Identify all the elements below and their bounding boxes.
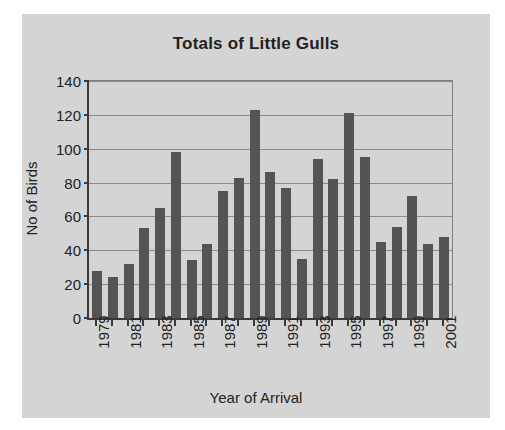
bar [155, 208, 165, 318]
x-tick-slot [137, 328, 147, 386]
x-tick-slot [421, 328, 431, 386]
y-tick-label: 80 [64, 174, 81, 191]
bar [392, 227, 402, 318]
x-tick-slot: 1987 [216, 328, 226, 386]
x-tick-slot [295, 328, 305, 386]
y-tick-label: 100 [56, 140, 81, 157]
bar [171, 152, 181, 318]
y-tick-label: 120 [56, 106, 81, 123]
x-tick-slot: 1983 [153, 328, 163, 386]
bar [108, 277, 118, 318]
plot-area: 020406080100120140 [87, 80, 453, 320]
y-tick-label: 60 [64, 208, 81, 225]
x-tick-slot [106, 328, 116, 386]
x-tick-slot [169, 328, 179, 386]
x-tick-slot: 1979 [90, 328, 100, 386]
bar [124, 264, 134, 318]
bar [439, 237, 449, 318]
y-tick-label: 0 [73, 310, 81, 327]
bar [313, 159, 323, 318]
x-tick-slot [232, 328, 242, 386]
x-axis-title: Year of Arrival [22, 389, 490, 406]
x-tick-slot [390, 328, 400, 386]
y-axis-title-text: No of Birds [23, 161, 40, 235]
x-tick-slot: 1989 [248, 328, 258, 386]
x-tick-slot [326, 328, 336, 386]
x-tick-label: 2001 [442, 315, 459, 348]
y-tick-label: 40 [64, 242, 81, 259]
x-tick-slot: 1993 [311, 328, 321, 386]
x-tick-slot: 1999 [405, 328, 415, 386]
bar [281, 188, 291, 318]
bar [328, 179, 338, 318]
bar [407, 196, 417, 318]
bar [344, 113, 354, 318]
x-tick-slot [358, 328, 368, 386]
bar [376, 242, 386, 318]
x-tick-slot: 1995 [342, 328, 352, 386]
y-tick-label: 140 [56, 73, 81, 90]
x-tick-slot: 2001 [437, 328, 447, 386]
x-tick-slot [263, 328, 273, 386]
bar [187, 260, 197, 318]
bar [297, 259, 307, 318]
bar-series [89, 81, 452, 318]
x-tick-slot: 1985 [185, 328, 195, 386]
x-axis-tick-labels: 1979198119831985198719891991199319951997… [87, 328, 450, 386]
chart-figure: Totals of Little Gulls No of Birds 02040… [22, 14, 490, 418]
chart-title: Totals of Little Gulls [22, 34, 490, 54]
bar [202, 244, 212, 318]
bar [139, 228, 149, 318]
x-tick-slot: 1981 [122, 328, 132, 386]
bar [423, 244, 433, 318]
bar [92, 271, 102, 318]
x-tick-slot: 1997 [374, 328, 384, 386]
bar [360, 157, 370, 318]
y-axis-title: No of Birds [20, 80, 42, 317]
bar [265, 172, 275, 318]
bar [250, 110, 260, 318]
x-tick-slot: 1991 [279, 328, 289, 386]
bar [234, 178, 244, 319]
y-tick-label: 20 [64, 276, 81, 293]
bar [218, 191, 228, 318]
x-tick-slot [200, 328, 210, 386]
